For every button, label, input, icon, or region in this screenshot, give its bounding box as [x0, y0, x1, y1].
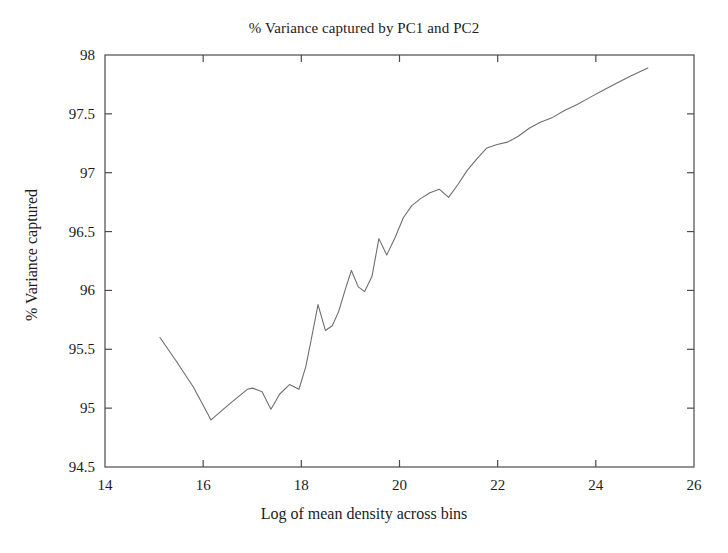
y-tick-label: 96 — [43, 282, 95, 299]
y-tick-label: 96.5 — [43, 223, 95, 240]
y-tick-label: 95.5 — [43, 341, 95, 358]
x-tick-label: 20 — [392, 477, 407, 494]
x-tick-label: 18 — [294, 477, 309, 494]
x-axis-ticks — [203, 55, 596, 467]
y-tick-label: 97.5 — [43, 105, 95, 122]
y-tick-label: 95 — [43, 400, 95, 417]
y-tick-label: 94.5 — [43, 459, 95, 476]
chart-plot-svg — [0, 0, 728, 553]
plot-frame-rect — [105, 55, 694, 467]
y-axis-ticks — [105, 114, 694, 408]
figure-container: % Variance captured by PC1 and PC2 % Var… — [0, 0, 728, 553]
y-tick-label: 98 — [43, 47, 95, 64]
plot-frame — [105, 55, 694, 467]
x-tick-label: 16 — [196, 477, 211, 494]
x-tick-label: 24 — [588, 477, 603, 494]
y-tick-label: 97 — [43, 164, 95, 181]
x-tick-label: 26 — [687, 477, 702, 494]
x-tick-label: 22 — [490, 477, 505, 494]
data-line-variance-captured — [160, 68, 648, 420]
x-tick-label: 14 — [98, 477, 113, 494]
data-series-group — [160, 68, 648, 420]
